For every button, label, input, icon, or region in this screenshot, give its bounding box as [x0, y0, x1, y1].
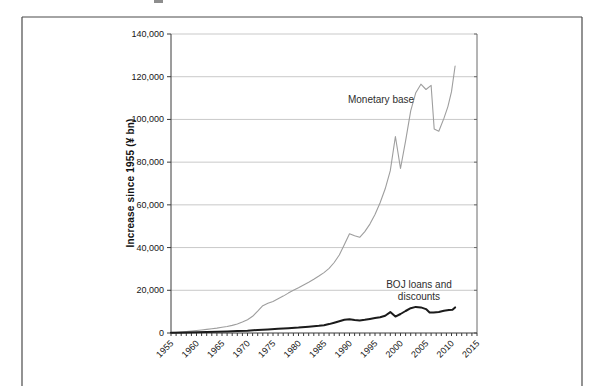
x-tick-label: 1965 — [205, 338, 226, 359]
y-tick-label: 20,000 — [136, 285, 164, 295]
chart-canvas: 020,00040,00060,00080,000100,000120,0001… — [0, 0, 600, 386]
x-tick-label: 1980 — [282, 338, 303, 359]
figure-page: 020,00040,00060,00080,000100,000120,0001… — [0, 0, 600, 386]
x-tick-label: 1975 — [256, 338, 277, 359]
y-axis-title: Increase since 1955 (¥ bn) — [125, 118, 136, 247]
boj-loans-line-label: BOJ loans and discounts — [386, 279, 452, 303]
boj-loans-label-line1: BOJ loans and — [386, 279, 452, 291]
x-tick-label: 2010 — [435, 338, 456, 359]
x-tick-label: 1955 — [154, 338, 175, 359]
boj-loans-label-line2: discounts — [386, 291, 452, 303]
x-tick-label: 2015 — [460, 338, 481, 359]
y-tick-label: 100,000 — [131, 114, 164, 124]
x-tick-label: 2005 — [409, 338, 430, 359]
y-tick-label: 140,000 — [131, 29, 164, 39]
x-tick-label: 1960 — [180, 338, 201, 359]
y-tick-label: 60,000 — [136, 200, 164, 210]
y-tick-label: 80,000 — [136, 157, 164, 167]
x-tick-label: 1990 — [333, 338, 354, 359]
x-tick-label: 1985 — [307, 338, 328, 359]
y-tick-label: 0 — [159, 328, 164, 338]
y-tick-label: 120,000 — [131, 72, 164, 82]
monetary-base-line-label: Monetary base — [348, 94, 414, 105]
x-tick-label: 2000 — [384, 338, 405, 359]
x-tick-label: 1970 — [231, 338, 252, 359]
y-tick-label: 40,000 — [136, 243, 164, 253]
x-tick-label: 1995 — [358, 338, 379, 359]
